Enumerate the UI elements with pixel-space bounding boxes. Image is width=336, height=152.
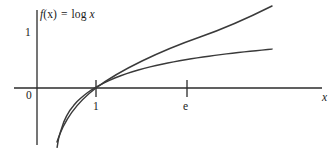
function-label-arg: (x) [43,8,57,20]
log-function-plot: f(x) = log x 1 0 1 e x [0,0,336,152]
log-curve-stroke [57,6,272,142]
y-axis-tick-label-1: 1 [25,27,31,39]
origin-label-0: 0 [26,90,32,102]
function-label-var: x [90,8,95,20]
function-label-body: log [72,8,87,20]
function-label-equals: = [60,8,69,20]
x-axis-name-label: x [322,92,327,104]
x-axis-tick-label-1: 1 [93,101,99,113]
log-curve-layer [0,0,336,152]
function-label: f(x) = log x [40,9,95,21]
x-axis-tick-label-e: e [183,101,188,113]
